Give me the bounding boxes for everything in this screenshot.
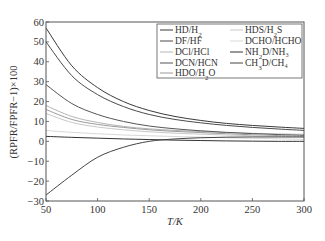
y-axis-label: (RPFR/FPFR−1)×100 bbox=[8, 66, 20, 159]
legend: HD/H2DF/HFDCl/HClDCN/HCNHDO/H2OHDS/H2SDC… bbox=[157, 24, 302, 82]
x-tick-label: 100 bbox=[90, 204, 106, 215]
y-tick-label: 30 bbox=[34, 76, 45, 87]
y-tick-label: −20 bbox=[28, 176, 44, 187]
y-tick-label: 40 bbox=[34, 56, 45, 67]
legend-label: DCl/HCl bbox=[175, 47, 210, 57]
legend-label: DCHO/HCHO bbox=[245, 36, 302, 46]
series-line bbox=[46, 110, 304, 137]
x-tick-label: 200 bbox=[193, 204, 209, 215]
y-tick-label: 20 bbox=[34, 96, 45, 107]
y-tick-label: 50 bbox=[34, 36, 45, 47]
x-tick-label: 150 bbox=[141, 204, 157, 215]
legend-label: DF/HF bbox=[175, 36, 202, 46]
series-line bbox=[46, 137, 304, 195]
y-tick-label: 60 bbox=[34, 17, 45, 28]
legend-label: HDO/H2O bbox=[175, 68, 216, 82]
legend-label: DCN/HCN bbox=[175, 58, 218, 68]
y-tick-label: 10 bbox=[34, 116, 45, 127]
x-tick-label: 300 bbox=[296, 204, 312, 215]
y-tick-label: −10 bbox=[28, 156, 44, 167]
y-tick-label: −30 bbox=[28, 196, 44, 207]
y-tick-label: 0 bbox=[39, 136, 44, 147]
x-tick-label: 250 bbox=[245, 204, 261, 215]
x-axis-label: T/K bbox=[167, 216, 184, 227]
chart: 50100150200250300−30−20−100102030405060 … bbox=[0, 0, 325, 241]
